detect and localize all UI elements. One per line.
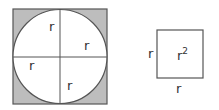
- radius-label-bottom: r: [67, 78, 73, 93]
- radius-label-top: r: [49, 19, 55, 34]
- circle-in-square-figure: r r r r: [13, 9, 107, 104]
- r-squared-figure: r r r2: [148, 30, 203, 96]
- radius-label-right: r: [84, 38, 90, 53]
- radius-label-left: r: [29, 58, 35, 73]
- side-label-left: r: [148, 46, 154, 61]
- area-diagram: r r r r r r r2: [0, 0, 219, 110]
- side-label-bottom: r: [176, 81, 182, 96]
